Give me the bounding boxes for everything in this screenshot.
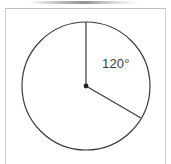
angle-label-120-degrees: 120° bbox=[102, 56, 130, 71]
circle-central-angle-diagram: 120° bbox=[0, 0, 171, 164]
center-dot bbox=[84, 84, 89, 89]
radius-lower-right bbox=[86, 86, 141, 118]
circle-diagram-svg bbox=[0, 0, 171, 164]
